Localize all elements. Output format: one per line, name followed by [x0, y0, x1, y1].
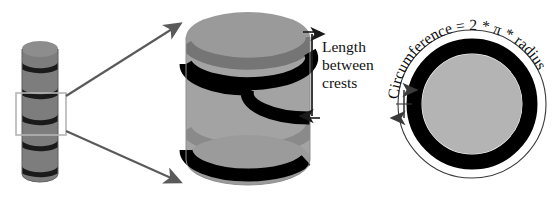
- length-between-crests-label: Length between crests: [322, 38, 374, 92]
- cross-section-disc: [422, 54, 522, 154]
- dimension-label-line-1: Length: [322, 38, 374, 56]
- dimension-label-line-2: between: [322, 56, 374, 74]
- diagram-canvas: Circumference = 2 * π * radius Length be…: [0, 0, 559, 211]
- callout-arrow-bottom: [66, 131, 180, 182]
- diagram-graphics: Circumference = 2 * π * radius: [0, 0, 559, 211]
- small-cylinder-top: [22, 41, 58, 57]
- small-cylinder-group: [16, 41, 66, 182]
- large-cylinder-group: [186, 12, 312, 185]
- callout-arrow-top: [66, 24, 180, 96]
- cross-section-group: Circumference = 2 * π * radius: [384, 16, 550, 178]
- dimension-label-line-3: crests: [322, 74, 374, 92]
- callout-arrows: [66, 24, 180, 182]
